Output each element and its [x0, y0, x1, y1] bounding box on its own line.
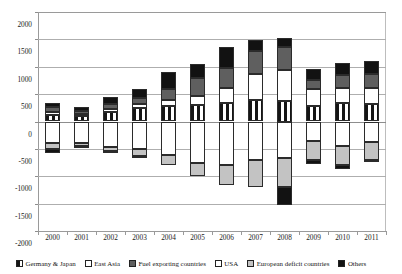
- bar-segment[interactable]: [45, 107, 60, 113]
- bar-segment[interactable]: [45, 149, 60, 153]
- bar-segment[interactable]: [103, 109, 118, 112]
- bar-segment[interactable]: [161, 122, 176, 155]
- bar-segment[interactable]: [161, 89, 176, 100]
- bar-segment[interactable]: [335, 146, 350, 165]
- x-tick-label: 2006: [212, 234, 241, 242]
- bar-segment[interactable]: [277, 122, 292, 158]
- bar-segment[interactable]: [132, 98, 147, 104]
- legend-item-eastasia[interactable]: East Asia: [85, 260, 120, 267]
- bar-segment[interactable]: [219, 165, 234, 185]
- bar-segment[interactable]: [219, 122, 234, 166]
- bar-segment[interactable]: [45, 122, 60, 144]
- bar-segment[interactable]: [103, 97, 118, 104]
- bar-segment[interactable]: [103, 151, 118, 153]
- bar-segment[interactable]: [248, 160, 263, 186]
- bar-segment[interactable]: [132, 156, 147, 158]
- bar-segment[interactable]: [335, 75, 350, 87]
- bar-segment[interactable]: [306, 122, 321, 141]
- bar-segment[interactable]: [103, 104, 118, 108]
- bar-segment[interactable]: [74, 122, 89, 144]
- bar-segment[interactable]: [190, 78, 205, 96]
- bar-segment[interactable]: [248, 122, 263, 161]
- bar-column[interactable]: [277, 12, 292, 231]
- bar-segment[interactable]: [248, 74, 263, 100]
- bar-column[interactable]: [161, 12, 176, 231]
- bar-segment[interactable]: [306, 89, 321, 105]
- legend-item-eudef[interactable]: European deficit countries: [247, 260, 329, 267]
- bar-segment[interactable]: [277, 101, 292, 122]
- bar-segment[interactable]: [219, 103, 234, 121]
- legend-label: European deficit countries: [257, 260, 330, 267]
- legend-item-fuel[interactable]: Fuel exporting countries: [129, 260, 206, 267]
- bar-segment[interactable]: [132, 89, 147, 97]
- bar-segment[interactable]: [306, 80, 321, 89]
- bar-segment[interactable]: [45, 103, 60, 106]
- bar-segment[interactable]: [132, 149, 147, 156]
- bar-segment[interactable]: [161, 72, 176, 89]
- legend-item-others[interactable]: Others: [338, 260, 366, 267]
- bar-segment[interactable]: [306, 69, 321, 80]
- bar-segment[interactable]: [103, 112, 118, 122]
- bar-segment[interactable]: [335, 122, 350, 147]
- bar-segment[interactable]: [364, 61, 379, 74]
- bar-segment[interactable]: [364, 122, 379, 142]
- bar-column[interactable]: [190, 12, 205, 231]
- bar-segment[interactable]: [277, 70, 292, 101]
- bar-segment[interactable]: [219, 68, 234, 88]
- bar-segment[interactable]: [132, 122, 147, 149]
- bar-segment[interactable]: [190, 163, 205, 176]
- bar-column[interactable]: [45, 12, 60, 231]
- bar-column[interactable]: [306, 12, 321, 231]
- bar-segment[interactable]: [161, 106, 176, 122]
- bar-column[interactable]: [364, 12, 379, 231]
- bar-segment[interactable]: [277, 47, 292, 71]
- bar-segment[interactable]: [219, 88, 234, 103]
- bar-segment[interactable]: [74, 107, 89, 111]
- legend-swatch-icon: [129, 260, 136, 267]
- bar-column[interactable]: [103, 12, 118, 231]
- bar-segment[interactable]: [190, 105, 205, 121]
- bar-segment[interactable]: [74, 146, 89, 148]
- bar-segment[interactable]: [364, 104, 379, 122]
- bar-segment[interactable]: [277, 158, 292, 187]
- legend-item-usa[interactable]: USA: [215, 260, 238, 267]
- bar-segment[interactable]: [190, 122, 205, 164]
- bar-segment[interactable]: [248, 40, 263, 51]
- bar-segment[interactable]: [74, 111, 89, 115]
- bar-column[interactable]: [248, 12, 263, 231]
- bar-column[interactable]: [74, 12, 89, 231]
- bar-segment[interactable]: [364, 142, 379, 161]
- bar-segment[interactable]: [306, 160, 321, 164]
- x-tick-label: 2005: [183, 234, 212, 242]
- bar-segment[interactable]: [277, 187, 292, 205]
- bar-segment[interactable]: [190, 96, 205, 105]
- bar-segment[interactable]: [161, 155, 176, 165]
- legend-label: Others: [348, 260, 366, 267]
- bar-segment[interactable]: [277, 38, 292, 46]
- legend-label: Fuel exporting countries: [138, 260, 205, 267]
- legend-label: East Asia: [94, 260, 120, 267]
- bar-segment[interactable]: [132, 108, 147, 121]
- bar-segment[interactable]: [132, 104, 147, 108]
- bar-segment[interactable]: [335, 88, 350, 104]
- bar-segment[interactable]: [248, 100, 263, 122]
- bar-segment[interactable]: [335, 63, 350, 76]
- bar-segment[interactable]: [161, 100, 176, 106]
- bar-column[interactable]: [335, 12, 350, 231]
- legend-item-germany[interactable]: Germany & Japan: [16, 260, 76, 267]
- bar-segment[interactable]: [190, 64, 205, 79]
- bar-segment[interactable]: [248, 51, 263, 74]
- bar-segment[interactable]: [364, 74, 379, 89]
- bar-segment[interactable]: [335, 165, 350, 169]
- bar-segment[interactable]: [364, 160, 379, 162]
- bar-segment[interactable]: [364, 88, 379, 104]
- bar-column[interactable]: [132, 12, 147, 231]
- bar-column[interactable]: [219, 12, 234, 231]
- bar-segment[interactable]: [74, 114, 89, 116]
- bar-segment[interactable]: [306, 106, 321, 122]
- bar-segment[interactable]: [103, 122, 118, 147]
- bar-segment[interactable]: [219, 47, 234, 67]
- bar-segment[interactable]: [306, 141, 321, 160]
- bar-segment[interactable]: [335, 103, 350, 121]
- bar-segment[interactable]: [45, 112, 60, 115]
